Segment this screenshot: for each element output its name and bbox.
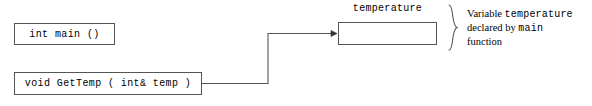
function-box-main-label: int main ()	[29, 29, 99, 40]
annotation-line-2-code: main	[518, 23, 543, 34]
annotation-line-1: Variable temperature	[467, 7, 589, 21]
function-box-main[interactable]: int main ()	[14, 23, 115, 45]
function-box-gettemp[interactable]: void GetTemp ( int& temp )	[14, 72, 202, 95]
annotation-line-2: declared by main	[467, 21, 589, 35]
connector-path	[202, 34, 332, 84]
annotation-line-3: function	[467, 35, 589, 48]
annotation-line-2-prefix: declared by	[467, 22, 518, 33]
parameter-passing-diagram: int main () void GetTemp ( int& temp ) t…	[0, 0, 592, 106]
curly-brace-icon	[446, 4, 464, 52]
variable-label-temperature: temperature	[338, 3, 437, 14]
annotation-line-1-prefix: Variable	[467, 8, 505, 19]
function-box-gettemp-label: void GetTemp ( int& temp )	[25, 78, 191, 89]
arrowhead-icon	[331, 31, 337, 37]
variable-box-temperature[interactable]	[338, 22, 437, 45]
annotation-line-1-code: temperature	[505, 9, 573, 20]
brace-path	[449, 5, 457, 50]
annotation-text: Variable temperature declared by main fu…	[467, 7, 589, 49]
